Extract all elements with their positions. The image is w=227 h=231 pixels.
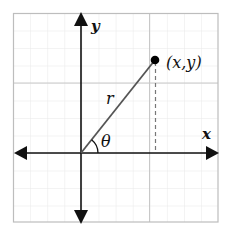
point-label: (x,y) [166,53,202,72]
y-axis-label: y [90,17,101,35]
grid-background [13,13,218,222]
x-axis-label: x [201,125,212,143]
point-marker [151,56,160,65]
polar-coordinate-diagram: y x r θ (x,y) [0,0,227,231]
radius-label: r [106,89,115,108]
angle-label: θ [101,132,111,151]
